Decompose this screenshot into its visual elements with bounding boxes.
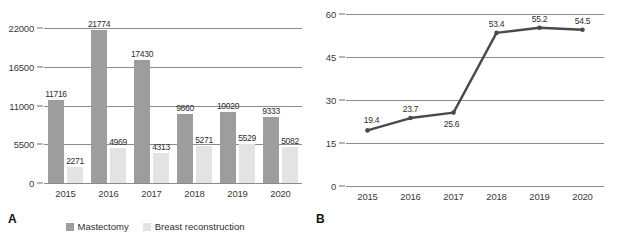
bar-mastectomy [177, 114, 193, 183]
y-axis-tick-label-b: 15 [326, 138, 336, 149]
bar-reconstruction [282, 147, 298, 183]
y-tick-mark-a [37, 144, 43, 145]
bar-mastectomy [91, 30, 107, 183]
bar-reconstruction [239, 144, 255, 183]
y-axis-tick-label-a: 5500 [14, 139, 34, 150]
y-axis-tick-label-b: 45 [326, 52, 336, 63]
bar-mastectomy [263, 117, 279, 183]
panel-letter-b: B [316, 212, 325, 226]
y-axis-tick-label-b: 30 [326, 95, 336, 106]
x-axis-tick-label-a: 2016 [98, 188, 118, 199]
bar-value-label: 9333 [262, 106, 280, 116]
y-tick-mark-a [37, 66, 43, 67]
y-tick-mark-b [339, 186, 345, 187]
y-axis-tick-label-a: 22000 [9, 23, 34, 34]
bar-mastectomy [48, 100, 64, 183]
legend-label: Mastectomy [78, 221, 129, 232]
x-axis-tick-label-a: 2020 [270, 188, 290, 199]
line-data-point [451, 110, 456, 115]
legend-swatch-mastectomy [66, 223, 74, 231]
bar-mastectomy [220, 112, 236, 183]
line-value-label: 54.5 [575, 16, 590, 26]
x-axis-tick-label-b: 2017 [443, 191, 463, 202]
y-tick-mark-b [339, 143, 345, 144]
y-axis-tick-label-b: 60 [326, 9, 336, 20]
y-tick-mark-b [339, 100, 345, 101]
line-data-point [580, 27, 585, 32]
bar-value-label: 2271 [66, 156, 84, 166]
bar-mastectomy [134, 60, 150, 183]
x-axis-tick-label-b: 2016 [400, 191, 420, 202]
gridline-a [44, 183, 302, 184]
bar-reconstruction [196, 146, 212, 183]
bar-value-label: 4313 [152, 142, 170, 152]
line-value-label: 53.4 [489, 19, 504, 29]
y-tick-mark-b [339, 57, 345, 58]
x-axis-tick-label-b: 2018 [486, 191, 506, 202]
bar-value-label: 21774 [88, 19, 110, 29]
x-axis-tick-label-a: 2017 [141, 188, 161, 199]
line-series-svg [346, 14, 604, 186]
y-axis-tick-label-b: 0 [331, 181, 336, 192]
bar-value-label: 5271 [195, 135, 213, 145]
legend-swatch-reconstruction [143, 223, 151, 231]
x-axis-tick-label-a: 2015 [55, 188, 75, 199]
y-axis-tick-label-a: 16500 [9, 61, 34, 72]
gridline-a [44, 28, 302, 29]
legend-item[interactable]: Breast reconstruction [143, 221, 245, 232]
y-tick-mark-a [37, 105, 43, 106]
bar-reconstruction [110, 148, 126, 183]
line-value-label: 25.6 [444, 119, 459, 129]
bar-reconstruction [153, 153, 169, 183]
x-axis-tick-label-a: 2019 [227, 188, 247, 199]
legend-item[interactable]: Mastectomy [66, 221, 129, 232]
bar-reconstruction [67, 167, 83, 183]
line-data-point [537, 25, 542, 30]
bar-value-label: 17430 [131, 49, 153, 59]
figure-root: A MastectomyBreast reconstruction 055001… [0, 0, 620, 238]
y-axis-tick-label-a: 0 [29, 178, 34, 189]
bar-value-label: 5529 [238, 133, 256, 143]
line-value-label: 19.4 [364, 115, 379, 125]
panel-a-bar-chart: A MastectomyBreast reconstruction 055001… [0, 0, 310, 238]
bar-value-label: 5082 [281, 136, 299, 146]
bar-value-label: 9860 [176, 103, 194, 113]
x-axis-tick-label-b: 2020 [572, 191, 592, 202]
y-tick-mark-b [339, 14, 345, 15]
line-value-label: 23.7 [403, 104, 418, 114]
x-axis-tick-label-b: 2015 [357, 191, 377, 202]
line-path [368, 28, 583, 131]
x-axis-tick-label-a: 2018 [184, 188, 204, 199]
line-data-point [408, 116, 413, 121]
gridline-b [346, 186, 604, 187]
y-tick-mark-a [37, 28, 43, 29]
gridline-a [44, 67, 302, 68]
bar-value-label: 4969 [109, 137, 127, 147]
bar-value-label: 11716 [45, 89, 67, 99]
y-axis-tick-label-a: 11000 [9, 100, 34, 111]
chart-legend: MastectomyBreast reconstruction [0, 221, 310, 232]
legend-label: Breast reconstruction [155, 221, 245, 232]
y-tick-mark-a [37, 183, 43, 184]
plot-area-b [346, 14, 604, 186]
panel-b-line-chart: B 01530456019.423.725.653.455.254.520152… [312, 0, 620, 238]
x-axis-tick-label-b: 2019 [529, 191, 549, 202]
bar-value-label: 10020 [217, 101, 239, 111]
line-data-point [365, 128, 370, 133]
line-data-point [494, 31, 499, 36]
line-value-label: 55.2 [532, 14, 547, 24]
